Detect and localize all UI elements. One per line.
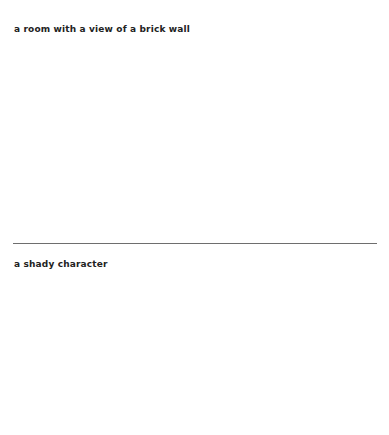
image-area-second — [0, 272, 389, 435]
image-area-first — [0, 38, 389, 243]
caption-text-first: a room with a view of a brick wall — [14, 24, 190, 35]
document-page: a room with a view of a brick wall a sha… — [0, 0, 389, 435]
section-divider — [13, 243, 377, 244]
caption-text-second: a shady character — [14, 259, 108, 270]
